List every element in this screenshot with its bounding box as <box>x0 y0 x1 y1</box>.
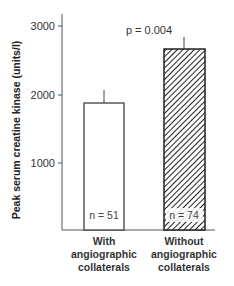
n-label-with: n = 51 <box>89 209 119 221</box>
ytick-1000: 1000 <box>31 157 55 169</box>
svg-text:collaterals: collaterals <box>158 261 210 273</box>
y-axis-label: Peak serum creatine kinase (units/l) <box>10 41 22 220</box>
ytick-2000: 2000 <box>31 89 55 101</box>
category-label-with: With angiographic collaterals <box>71 235 137 273</box>
svg-text:collaterals: collaterals <box>78 261 130 273</box>
bar-without-collaterals: n = 74 <box>164 37 205 230</box>
y-ticks: 3000 2000 1000 <box>31 20 62 169</box>
svg-text:Without: Without <box>165 235 204 247</box>
svg-text:With: With <box>93 235 116 247</box>
svg-text:angiographic: angiographic <box>71 248 137 260</box>
svg-text:angiographic: angiographic <box>151 248 217 260</box>
bar-with-collaterals: n = 51 <box>84 90 124 230</box>
bar-chart: 3000 2000 1000 Peak serum creatine kinas… <box>0 0 234 286</box>
n-label-without: n = 74 <box>169 209 199 221</box>
ytick-3000: 3000 <box>31 20 55 32</box>
p-value-annotation: p = 0.004 <box>126 24 172 36</box>
category-label-without: Without angiographic collaterals <box>151 235 217 273</box>
